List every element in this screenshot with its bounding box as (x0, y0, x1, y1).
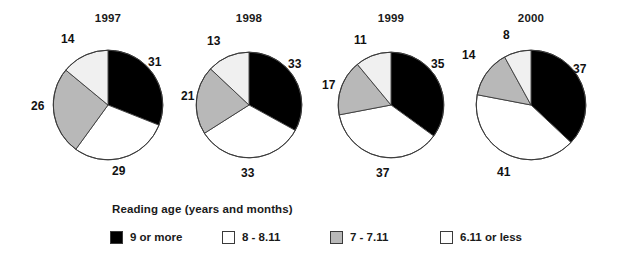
charts-row: 1997 31 29 26 14 1998 33 33 21 13 1999 (0, 0, 619, 200)
legend-label-8-8-11: 8 - 8.11 (242, 231, 280, 243)
slice-label-1997-6-11-or-less: 14 (61, 33, 74, 45)
slice-label-1997-7-7-11: 26 (31, 100, 44, 112)
pie-slices-1997 (53, 50, 163, 160)
legend-item-7-7-11: 7 - 7.11 (330, 228, 388, 246)
slice-label-1999-8-8-11: 37 (376, 167, 389, 179)
pie-chart-figure: 1997 31 29 26 14 1998 33 33 21 13 1999 (0, 0, 619, 265)
pie-slices-1998 (196, 52, 302, 158)
legend-item-8-8-11: 8 - 8.11 (222, 228, 280, 246)
legend-swatch-9-or-more (110, 231, 123, 244)
slice-label-1998-9-or-more: 33 (288, 58, 301, 70)
slice-label-1998-8-8-11: 33 (241, 167, 254, 179)
legend-swatch-6-11-or-less (440, 231, 453, 244)
pie-title-1997: 1997 (44, 12, 172, 24)
legend-item-6-11-or-less: 6.11 or less (440, 228, 522, 246)
pie-chart-2000: 2000 37 41 14 8 (470, 0, 592, 200)
legend-item-9-or-more: 9 or more (110, 228, 182, 246)
slice-label-2000-6-11-or-less: 8 (503, 29, 510, 41)
slice-label-1999-7-7-11: 17 (322, 79, 335, 91)
pie-title-2000: 2000 (470, 12, 592, 24)
slice-label-1998-7-7-11: 21 (181, 90, 194, 102)
pie-chart-1998: 1998 33 33 21 13 (190, 0, 308, 200)
legend-swatch-7-7-11 (330, 231, 343, 244)
pie-title-1998: 1998 (190, 12, 308, 24)
slice-label-2000-8-8-11: 41 (497, 166, 510, 178)
legend-items: 9 or more 8 - 8.11 7 - 7.11 6.11 or less (110, 228, 570, 250)
pie-svg-1998 (195, 51, 303, 159)
pie-svg-2000 (475, 49, 587, 161)
slice-label-1997-9-or-more: 31 (148, 56, 161, 68)
pie-slices-1999 (338, 52, 444, 158)
legend: Reading age (years and months) 9 or more… (110, 200, 570, 260)
legend-label-7-7-11: 7 - 7.11 (350, 231, 388, 243)
pie-slices-2000 (476, 50, 586, 160)
legend-title: Reading age (years and months) (112, 203, 293, 215)
legend-label-6-11-or-less: 6.11 or less (460, 231, 522, 243)
pie-chart-1997: 1997 31 29 26 14 (44, 0, 172, 200)
legend-swatch-8-8-11 (222, 231, 235, 244)
slice-label-1999-6-11-or-less: 11 (354, 34, 367, 46)
slice-label-1997-8-8-11: 29 (112, 165, 125, 177)
pie-svg-1999 (337, 51, 445, 159)
slice-label-1998-6-11-or-less: 13 (207, 35, 220, 47)
legend-label-9-or-more: 9 or more (130, 231, 182, 243)
slice-label-2000-7-7-11: 14 (462, 49, 475, 61)
slice-label-2000-9-or-more: 37 (573, 63, 586, 75)
pie-chart-1999: 1999 35 37 17 11 (332, 0, 450, 200)
pie-title-1999: 1999 (332, 12, 450, 24)
slice-label-1999-9-or-more: 35 (431, 58, 444, 70)
